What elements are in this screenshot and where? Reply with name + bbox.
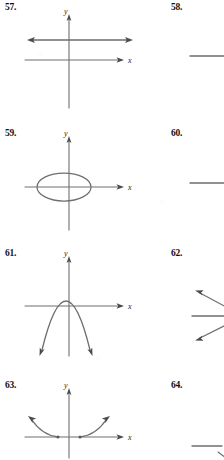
problem-number-62: 62. <box>171 249 182 259</box>
graph-branch-right-63 <box>80 420 106 437</box>
problem-number-57: 57. <box>5 3 16 13</box>
figure-59: y x <box>20 126 140 232</box>
graph-ray-upper-62 <box>200 293 224 308</box>
x-axis-label-57: x <box>127 56 132 65</box>
graph-mark-64 <box>218 452 224 458</box>
problem-number-64: 64. <box>171 381 182 391</box>
figure-62 <box>186 246 224 358</box>
graph-arrow-left-63 <box>28 416 36 423</box>
graph-point-right-63 <box>79 436 82 439</box>
y-axis-label-57: y <box>63 7 68 16</box>
y-axis-label-61: y <box>63 249 68 258</box>
figure-61: y x <box>20 246 140 358</box>
figure-60 <box>186 126 224 232</box>
y-axis-label-63: y <box>63 381 68 390</box>
graph-parabola-61 <box>42 301 90 350</box>
x-axis-label-59: x <box>127 183 132 192</box>
problem-number-59: 59. <box>5 129 16 139</box>
graph-branch-left-63 <box>32 420 58 437</box>
y-axis-label-59: y <box>63 129 68 138</box>
x-axis-label-63: x <box>127 433 132 442</box>
graph-point-left-63 <box>57 436 60 439</box>
figure-63: y x <box>20 378 140 460</box>
problem-number-60: 60. <box>171 129 182 139</box>
problem-number-63: 63. <box>5 381 16 391</box>
graph-ray-lower-62 <box>200 324 224 338</box>
exercise-figure-page: 57. y x 58. <box>0 0 224 460</box>
problem-number-58: 58. <box>171 3 182 13</box>
problem-number-61: 61. <box>5 249 16 259</box>
figure-58 <box>186 4 224 110</box>
figure-64 <box>186 378 224 460</box>
x-axis-label-61: x <box>127 302 132 311</box>
graph-arrow-right-63 <box>102 416 110 423</box>
figure-57: y x <box>20 4 140 110</box>
